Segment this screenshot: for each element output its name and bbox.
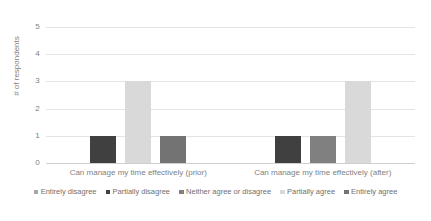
legend-label: Entirely agree [351,188,397,196]
y-axis-tick-label: 0 [12,159,40,167]
legend-label: Neither agree or disagree [186,188,271,196]
x-axis-category-label: Can manage my time effectively (prior) [46,168,231,177]
bar [275,136,301,163]
gridline [46,54,415,55]
legend-item[interactable]: Entirely agree [344,188,397,196]
legend-item[interactable]: Entirely disagree [34,188,97,196]
chart-legend: Entirely disagreePartially disagreeNeith… [0,188,431,196]
bar [310,136,336,163]
bar-chart: 012345 # of respondents Can manage my ti… [0,0,431,221]
legend-item[interactable]: Neither agree or disagree [179,188,271,196]
legend-label: Entirely disagree [41,188,97,196]
legend-swatch-icon [34,190,39,195]
legend-label: Partially agree [287,188,335,196]
x-axis-line [46,163,415,164]
x-axis-category-label: Can manage my time effectively (after) [231,168,416,177]
legend-swatch-icon [106,190,111,195]
y-axis-title: # of respondents [13,16,21,116]
legend-label: Partially disagree [113,188,171,196]
bar [345,81,371,163]
plot-area [46,27,415,163]
bar [160,136,186,163]
bar [125,81,151,163]
legend-swatch-icon [179,190,184,195]
legend-swatch-icon [280,190,285,195]
legend-item[interactable]: Partially disagree [106,188,171,196]
legend-item[interactable]: Partially agree [280,188,335,196]
y-axis-tick-label: 1 [12,132,40,140]
bar [90,136,116,163]
gridline [46,27,415,28]
legend-swatch-icon [344,190,349,195]
